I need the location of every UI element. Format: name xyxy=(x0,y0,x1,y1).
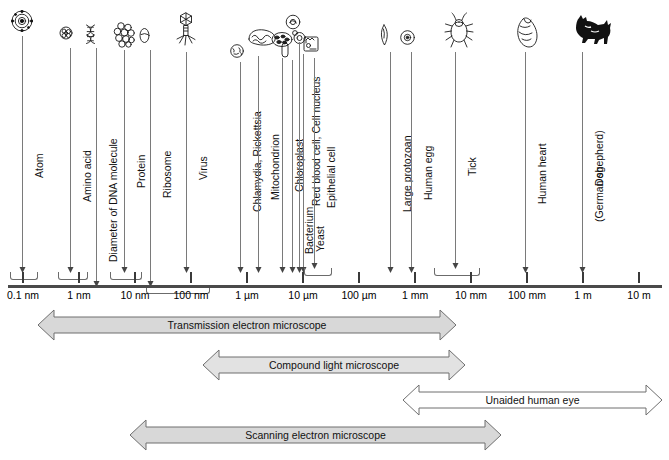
protein-icon xyxy=(113,22,135,48)
axis-tick xyxy=(582,272,584,283)
axis-tick xyxy=(302,272,304,283)
axis-tick xyxy=(78,272,80,283)
range-arrow-bar: Compound light microscope xyxy=(203,350,465,380)
axis-tick-label: 10 mm xyxy=(455,289,487,301)
axis-tick-label: 1 nm xyxy=(67,289,90,301)
specimen-leader-line xyxy=(258,56,259,268)
axis-tick xyxy=(134,272,136,283)
specimen-label: Chlamydia, Rickettsia xyxy=(251,111,263,212)
chlamydia-icon xyxy=(229,44,245,58)
specimen-range-bracket xyxy=(110,272,142,280)
specimen-range-bracket xyxy=(10,272,38,280)
specimen-label: Yeast xyxy=(314,226,326,252)
axis-tick xyxy=(190,272,192,283)
specimen-arrowhead xyxy=(183,267,189,273)
scale-diagram: AtomAmino acidDiameter of DNA moleculePr… xyxy=(0,0,669,460)
specimen-range-bracket xyxy=(304,268,332,276)
specimen-leader-line xyxy=(282,58,283,268)
axis-tick-label: 1 m xyxy=(574,289,592,301)
specimen-arrowhead xyxy=(289,267,295,273)
axis-tick-label: 10 nm xyxy=(120,289,149,301)
axis-tick-label: 100 mm xyxy=(508,289,546,301)
amino-acid-icon xyxy=(59,26,73,40)
tick-icon xyxy=(444,12,474,48)
axis-tick-label: 100 µm xyxy=(341,289,376,301)
axis-tick xyxy=(246,272,248,283)
dog-icon xyxy=(571,14,613,46)
bacterium-icon xyxy=(281,42,289,58)
heart-icon xyxy=(514,16,540,48)
axis-tick-label: 1 mm xyxy=(402,289,428,301)
specimen-label: Human heart xyxy=(536,143,548,204)
protozoan-icon xyxy=(379,24,389,46)
specimen-arrowhead xyxy=(279,267,285,273)
specimen-label: Amino acid xyxy=(81,150,93,202)
axis-tick-label: 0.1 nm xyxy=(7,289,39,301)
specimen-leader-line xyxy=(314,58,315,264)
specimen-label: Mitochondrion xyxy=(269,134,281,200)
specimen-label: Protein xyxy=(135,155,147,188)
specimen-leader-line xyxy=(390,52,391,268)
human-egg-icon xyxy=(400,30,415,45)
axis-tick-label: 1 µm xyxy=(235,289,259,301)
specimen-label: Tick xyxy=(466,157,478,176)
specimen-leader-line xyxy=(411,52,412,268)
axis-tick-label: 10 µm xyxy=(288,289,317,301)
specimen-label: (German shepherd) xyxy=(593,130,605,222)
specimen-leader-line xyxy=(455,52,456,264)
scale-axis-line xyxy=(8,285,662,288)
specimen-label: Diameter of DNA molecule xyxy=(107,138,119,262)
specimen-leader-line xyxy=(240,62,241,268)
axis-tick xyxy=(526,272,528,283)
specimen-arrowhead xyxy=(255,267,261,273)
range-arrow-bar: Scanning electron microscope xyxy=(130,420,501,450)
specimen-leader-line xyxy=(303,54,304,268)
specimen-label: Atom xyxy=(33,153,45,178)
rbc-icon xyxy=(285,14,301,30)
range-arrow-bar: Transmission electron microscope xyxy=(38,310,456,340)
specimen-range-bracket xyxy=(58,272,88,280)
specimen-label: Virus xyxy=(197,156,209,180)
axis-tick-label: 10 m xyxy=(627,289,650,301)
specimen-range-bracket xyxy=(434,268,480,276)
specimen-leader-line xyxy=(70,48,71,268)
dna-icon xyxy=(85,24,96,44)
specimen-label: Human egg xyxy=(422,146,434,200)
specimen-label: Epithelial cell xyxy=(325,147,337,208)
specimen-arrowhead xyxy=(387,267,393,273)
axis-tick-label: 100 nm xyxy=(173,289,208,301)
axis-tick xyxy=(22,272,24,283)
specimen-leader-line xyxy=(299,42,300,268)
specimen-leader-line xyxy=(582,52,583,268)
axis-tick xyxy=(470,272,472,283)
specimen-leader-line xyxy=(150,50,151,282)
ribosome-icon xyxy=(139,28,150,43)
axis-tick xyxy=(638,272,640,283)
specimen-label: Red blood cell, Cell nucleus xyxy=(310,76,322,206)
specimen-leader-line xyxy=(186,52,187,268)
epithelial-icon xyxy=(303,36,319,52)
specimen-arrowhead xyxy=(237,267,243,273)
specimen-leader-line xyxy=(124,50,125,268)
atom-icon xyxy=(11,10,33,32)
specimen-label: Ribosome xyxy=(161,151,173,198)
virus-icon xyxy=(175,12,197,48)
specimen-leader-line xyxy=(96,48,97,282)
range-arrow-bar: Unaided human eye xyxy=(403,385,662,415)
axis-tick xyxy=(358,272,360,283)
specimen-leader-line xyxy=(22,36,23,268)
specimen-leader-line xyxy=(525,52,526,268)
specimen-leader-line xyxy=(292,60,293,268)
axis-tick xyxy=(414,272,416,283)
